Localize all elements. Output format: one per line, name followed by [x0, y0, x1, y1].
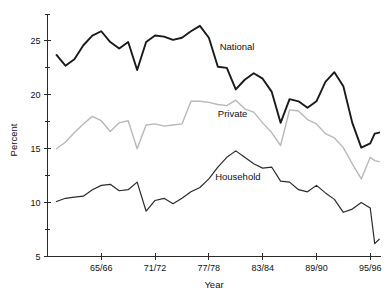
x-tick-label: 89/90	[305, 263, 328, 273]
series-label-national: National	[220, 41, 255, 52]
x-tick-label: 65/66	[90, 263, 113, 273]
x-tick-label: 83/84	[251, 263, 274, 273]
x-axis-tick-labels: 65/6671/7277/7883/8489/9095/96	[90, 263, 381, 273]
y-tick-label: 5	[35, 252, 40, 262]
y-axis-tick-labels: 510152025	[30, 36, 40, 262]
series-label-private: Private	[218, 108, 248, 119]
y-tick-label: 25	[30, 36, 40, 46]
y-tick-label: 15	[30, 144, 40, 154]
y-axis-title: Percent	[8, 123, 19, 156]
y-tick-label: 10	[30, 198, 40, 208]
series-line-household	[56, 151, 379, 244]
x-tick-label: 77/78	[198, 263, 221, 273]
x-tick-label: 71/72	[144, 263, 167, 273]
series-line-national	[56, 26, 379, 148]
line-chart: 510152025 65/6671/7277/7883/8489/9095/96…	[0, 0, 391, 297]
chart-container: 510152025 65/6671/7277/7883/8489/9095/96…	[0, 0, 391, 297]
series-label-household: Household	[215, 171, 260, 182]
x-axis-title: Year	[204, 279, 223, 290]
x-tick-label: 95/96	[359, 263, 382, 273]
y-tick-label: 20	[30, 90, 40, 100]
series-lines	[56, 26, 379, 244]
